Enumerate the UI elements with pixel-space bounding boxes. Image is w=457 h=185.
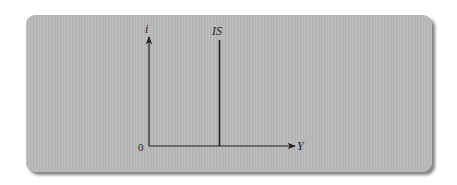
is-diagram [0, 0, 457, 185]
origin-label: 0 [138, 141, 144, 153]
is-curve-label: IS [212, 25, 222, 37]
y-axis-label: i [145, 23, 148, 35]
x-axis-label: Y [297, 140, 304, 152]
